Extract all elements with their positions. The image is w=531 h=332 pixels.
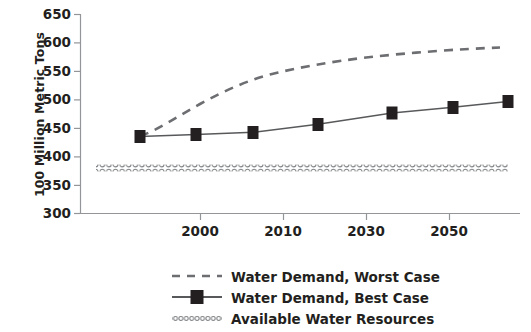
legend-key-available-resources <box>168 309 224 329</box>
legend-label-best-case: Water Demand, Best Case <box>224 290 429 306</box>
legend-label-available-resources: Available Water Resources <box>224 311 434 327</box>
legend-item-available-resources: Available Water Resources <box>168 308 498 329</box>
x-axis-ticks <box>201 214 450 221</box>
legend-key-worst-case <box>168 267 224 287</box>
chart-legend: Water Demand, Worst Case Water Demand, B… <box>168 266 498 329</box>
legend-label-worst-case: Water Demand, Worst Case <box>224 269 440 285</box>
legend-key-best-case <box>168 288 224 308</box>
series-best-case-markers <box>135 95 514 143</box>
legend-item-best-case: Water Demand, Best Case <box>168 287 498 308</box>
legend-item-worst-case: Water Demand, Worst Case <box>168 266 498 287</box>
y-axis-ticks <box>74 15 80 214</box>
series-available-water-resources <box>96 165 508 172</box>
water-demand-chart: 100 Million Metric Tons 650 600 550 500 … <box>0 0 531 332</box>
